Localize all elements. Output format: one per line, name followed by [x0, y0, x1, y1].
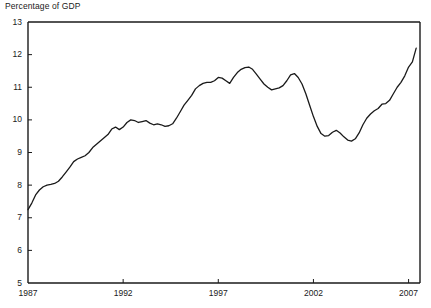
axes-group	[28, 22, 420, 283]
y-tick-label: 12	[2, 50, 22, 59]
y-tick-label: 11	[2, 83, 22, 92]
x-tick-label: 1992	[114, 289, 133, 298]
x-tick-label: 2002	[304, 289, 323, 298]
y-tick-label: 10	[2, 115, 22, 124]
y-tick-label: 6	[2, 246, 22, 255]
line-chart-plot	[0, 0, 431, 308]
y-tick-label: 9	[2, 148, 22, 157]
x-tick-label: 2007	[399, 289, 418, 298]
y-tick-label: 13	[2, 18, 22, 27]
y-tick-label: 8	[2, 181, 22, 190]
chart-container: Percentage of GDP 5678910111213 19871992…	[0, 0, 431, 308]
data-series-line	[28, 48, 416, 209]
y-tick-label: 5	[2, 279, 22, 288]
x-tick-label: 1987	[19, 289, 38, 298]
x-tick-label: 1997	[209, 289, 228, 298]
y-tick-label: 7	[2, 213, 22, 222]
tick-marks-group	[28, 55, 409, 283]
